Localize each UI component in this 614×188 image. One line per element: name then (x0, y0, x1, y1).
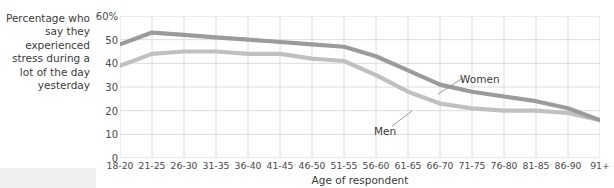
x-tick-label: 56-60 (362, 160, 389, 171)
series-label-men: Men (374, 125, 396, 137)
x-tick-label: 91+ (590, 160, 610, 171)
chart-caption: Percentage who say they experienced stre… (2, 12, 90, 92)
x-tick-label: 71-75 (458, 160, 485, 171)
stress-by-age-line-chart: Percentage who say they experienced stre… (0, 0, 614, 188)
y-tick-label: 10 (88, 130, 118, 140)
x-tick-label: 36-40 (234, 160, 261, 171)
annotation-leader-lines (392, 78, 463, 126)
y-tick-label: 60% (88, 12, 118, 22)
y-tick-label: 20 (88, 107, 118, 117)
plot-area (120, 16, 600, 158)
y-tick-label: 50 (88, 36, 118, 46)
y-tick-label: 40 (88, 59, 118, 69)
y-tick-label: 30 (88, 83, 118, 93)
series-lines (120, 33, 600, 121)
x-tick-label: 26-30 (170, 160, 197, 171)
footer-band (0, 168, 96, 188)
x-tick-label: 31-35 (202, 160, 229, 171)
series-line-women (120, 33, 600, 121)
x-tick-label: 76-80 (490, 160, 517, 171)
x-tick-label: 66-70 (426, 160, 453, 171)
x-tick-label: 86-90 (554, 160, 581, 171)
x-tick-label: 51-55 (330, 160, 357, 171)
x-tick-label: 21-25 (138, 160, 165, 171)
x-tick-label: 81-85 (522, 160, 549, 171)
x-axis: 18-2021-2526-3031-3536-4041-4546-5051-55… (120, 160, 600, 174)
x-tick-label: 41-45 (266, 160, 293, 171)
x-tick-label: 46-50 (298, 160, 325, 171)
series-label-women: Women (460, 73, 500, 85)
series-line-men (120, 52, 600, 121)
x-tick-label: 18-20 (106, 160, 133, 171)
x-axis-label: Age of respondent (120, 174, 600, 186)
x-tick-label: 61-65 (394, 160, 421, 171)
